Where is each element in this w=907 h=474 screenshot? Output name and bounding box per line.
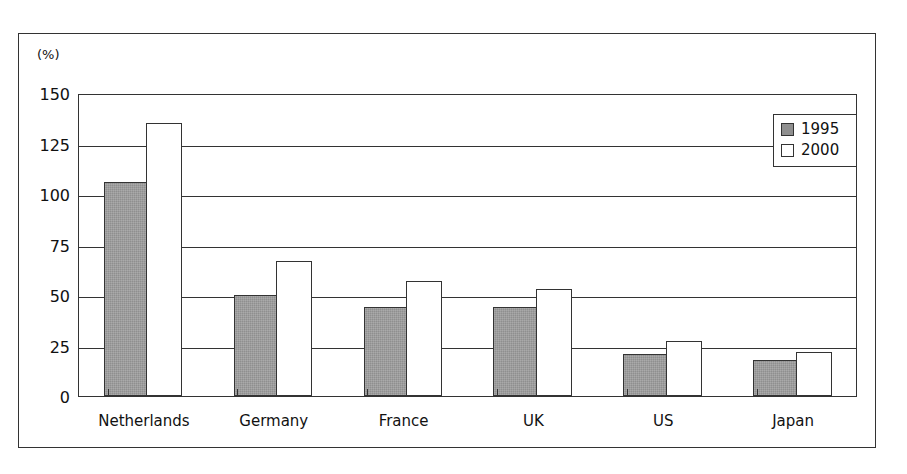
bar-1995 — [623, 354, 667, 396]
plot-area: 0255075100125150 NetherlandsGermanyFranc… — [78, 94, 857, 397]
bar-2000 — [796, 352, 832, 396]
bar-2000 — [536, 289, 572, 396]
y-axis-tick-label: 50 — [50, 289, 70, 305]
bar-1995 — [104, 182, 148, 396]
bar-1995 — [753, 360, 797, 396]
x-axis-category-label: US — [653, 412, 674, 430]
y-axis-unit-label: (%) — [37, 47, 60, 62]
y-axis-tick-label: 0 — [60, 390, 70, 406]
x-axis-minor-tick — [237, 389, 238, 396]
bar-group — [209, 95, 339, 396]
x-axis-minor-tick — [108, 389, 109, 396]
x-axis-category-label: UK — [523, 412, 544, 430]
x-axis-category-label: Germany — [239, 412, 308, 430]
bar-group — [469, 95, 599, 396]
bar-2000 — [406, 281, 442, 396]
bar-1995 — [234, 295, 278, 396]
legend-item-2000: 2000 — [781, 140, 849, 161]
bar-1995 — [364, 307, 408, 396]
bar-2000 — [146, 123, 182, 396]
chart-figure: (%) 0255075100125150 NetherlandsGermanyF… — [18, 33, 876, 448]
bar-series-container — [79, 95, 856, 396]
bar-group — [598, 95, 728, 396]
x-axis-minor-tick — [367, 389, 368, 396]
x-axis-minor-tick — [757, 389, 758, 396]
legend-swatch-1995 — [781, 123, 794, 136]
bar-group — [339, 95, 469, 396]
x-axis-minor-tick — [627, 389, 628, 396]
x-axis-minor-tick — [497, 389, 498, 396]
y-axis-tick-label: 150 — [39, 87, 70, 103]
y-axis-tick-label: 100 — [39, 188, 70, 204]
bar-1995 — [493, 307, 537, 396]
legend-item-1995: 1995 — [781, 119, 849, 140]
x-axis-category-label: Japan — [772, 412, 814, 430]
bar-group — [79, 95, 209, 396]
x-axis-category-label: Netherlands — [98, 412, 189, 430]
y-axis-tick-label: 125 — [39, 138, 70, 154]
bar-2000 — [276, 261, 312, 396]
x-axis-category-label: France — [379, 412, 429, 430]
y-axis-tick-label: 75 — [50, 239, 70, 255]
bar-2000 — [666, 341, 702, 396]
legend-swatch-2000 — [781, 144, 794, 157]
chart-legend: 1995 2000 — [773, 114, 857, 167]
legend-label-2000: 2000 — [801, 143, 839, 158]
legend-label-1995: 1995 — [801, 122, 839, 137]
y-axis-tick-label: 25 — [50, 340, 70, 356]
